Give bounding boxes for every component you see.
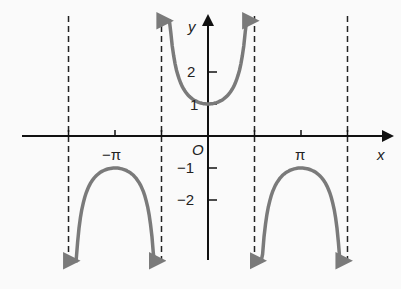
y-axis-label: y bbox=[187, 18, 197, 35]
tick-label-neg-pi: −π bbox=[102, 146, 121, 163]
tick-label-2: 2 bbox=[187, 63, 195, 80]
plot-area: y x O −π π 2 1 −1 −2 bbox=[0, 0, 401, 289]
tick-label-1: 1 bbox=[190, 96, 198, 113]
tick-label-neg1: −1 bbox=[177, 159, 194, 176]
x-axis-label: x bbox=[376, 146, 385, 163]
origin-label: O bbox=[192, 141, 204, 158]
sec-graph: y x O −π π 2 1 −1 −2 bbox=[0, 0, 401, 289]
curve-branch-left bbox=[72, 168, 158, 261]
tick-label-pi: π bbox=[295, 146, 305, 163]
curve-branch-right bbox=[258, 168, 344, 261]
tick-label-neg2: −2 bbox=[177, 191, 194, 208]
